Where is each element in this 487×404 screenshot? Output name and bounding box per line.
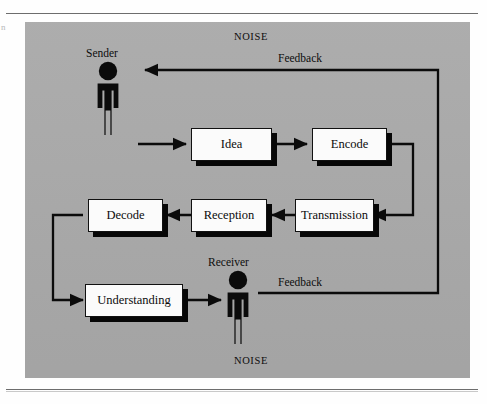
node-transmission-label: Transmission bbox=[301, 209, 368, 222]
sender-head bbox=[99, 62, 117, 80]
node-decode-label: Decode bbox=[106, 209, 144, 222]
footer-rule bbox=[6, 389, 478, 390]
footer-rule-secondary bbox=[6, 391, 478, 392]
feedback-label-bottom: Feedback bbox=[278, 277, 322, 289]
noise-label-bottom: NOISE bbox=[234, 356, 268, 367]
margin-artifact-text: n bbox=[1, 22, 5, 32]
node-idea[interactable]: Idea bbox=[191, 128, 272, 161]
node-transmission[interactable]: Transmission bbox=[295, 199, 374, 232]
node-idea-label: Idea bbox=[221, 138, 243, 151]
receiver-head bbox=[229, 271, 247, 289]
page-canvas: n bbox=[0, 0, 487, 404]
connector-receiver-feedback-to-sender bbox=[145, 70, 438, 293]
node-encode-label: Encode bbox=[331, 138, 368, 151]
figure-receiver bbox=[228, 271, 249, 344]
node-decode[interactable]: Decode bbox=[88, 199, 163, 232]
receiver-body bbox=[228, 293, 249, 345]
figure-sender bbox=[98, 62, 119, 135]
node-understanding-label: Understanding bbox=[97, 294, 171, 307]
receiver-label: Receiver bbox=[208, 257, 249, 269]
node-encode[interactable]: Encode bbox=[312, 128, 387, 161]
node-understanding[interactable]: Understanding bbox=[85, 284, 183, 317]
sender-label: Sender bbox=[86, 48, 118, 60]
sender-body bbox=[98, 84, 119, 136]
header-rule bbox=[6, 13, 478, 14]
node-reception[interactable]: Reception bbox=[191, 199, 267, 232]
feedback-label-top: Feedback bbox=[278, 53, 322, 65]
node-reception-label: Reception bbox=[204, 209, 255, 222]
noise-label-top: NOISE bbox=[234, 32, 268, 43]
diagram-panel: NOISE Sender Feedback Receiver Feedback … bbox=[25, 22, 470, 378]
connector-decode-to-understanding bbox=[53, 215, 83, 300]
